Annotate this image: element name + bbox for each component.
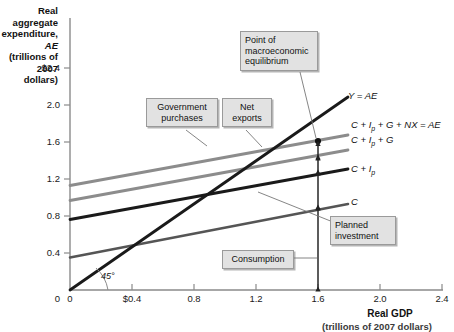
- x-tick-label-0-4: $0.4: [114, 293, 150, 304]
- callout-equilibrium-line-2: macroeconomic: [245, 46, 313, 57]
- callout-planned-investment-line-2: investment: [335, 231, 391, 242]
- callout-net-exports-line-1: Net: [227, 102, 267, 113]
- x-tick-label-0: 0: [52, 293, 88, 304]
- y-tick-label-2-4: $2.4: [26, 62, 60, 73]
- callout-equilibrium: Point of macroeconomic equilibrium: [240, 31, 318, 71]
- callout-net-exports: Net exports: [222, 98, 272, 127]
- x-tick-label-0-8: 0.8: [176, 293, 212, 304]
- callout-government-purchases-line-1: Government: [151, 102, 213, 113]
- x-tick-label-2-4: 2.4: [424, 293, 454, 304]
- callout-equilibrium-line-1: Point of: [245, 35, 313, 46]
- x-axis-subtitle: (trillions of 2007 dollars): [300, 321, 454, 332]
- callout-government-purchases: Government purchases: [146, 98, 218, 127]
- y-axis-title-line-1: Real aggregate: [0, 5, 58, 28]
- y-axis-title: Real aggregate expenditure, AE (trillion…: [0, 5, 58, 86]
- x-axis-ticks: [132, 284, 442, 290]
- y-tick-label-0-8: 0.8: [26, 210, 60, 221]
- forty-five-degree-label: 45°: [101, 271, 115, 281]
- callout-net-exports-line-2: exports: [227, 113, 267, 124]
- callout-equilibrium-line-3: equilibrium: [245, 56, 313, 67]
- callout-consumption: Consumption: [222, 250, 294, 269]
- series-label-y-ae: Y = AE: [348, 90, 377, 101]
- callout-planned-investment: Planned investment: [330, 216, 396, 245]
- callout-consumption-line-1: Consumption: [227, 254, 289, 265]
- y-tick-label-1-2: 1.2: [26, 173, 60, 184]
- series-label-c-ip-g: C + Ip + G: [351, 134, 393, 147]
- y-axis-title-line-3: (trillions of: [0, 51, 58, 63]
- callout-government-purchases-line-2: purchases: [151, 113, 213, 124]
- x-tick-label-1-2: 1.2: [238, 293, 274, 304]
- series-label-c-ip-g-nx-rest: + G + NX = AE: [375, 119, 440, 130]
- x-tick-label-2-0: 2.0: [362, 293, 398, 304]
- series-label-c-ip: C + Ip: [351, 163, 375, 176]
- series-label-c-ip-g-nx: C + Ip + G + NX = AE: [351, 119, 441, 132]
- x-tick-label-1-6: 1.6: [300, 293, 336, 304]
- series-label-c: C: [351, 196, 358, 207]
- series-label-c-ip-main: C + I: [351, 163, 371, 174]
- series-label-c-ip-g-nx-main: C + I: [351, 119, 371, 130]
- y-tick-label-1-6: 1.6: [26, 136, 60, 147]
- series-label-c-ip-g-main: C + I: [351, 134, 371, 145]
- y-axis-ticks: [64, 68, 70, 253]
- x-axis-title: Real GDP: [330, 308, 450, 319]
- y-tick-label-2-0: 2.0: [26, 99, 60, 110]
- series-label-c-ip-g-rest: + G: [375, 134, 393, 145]
- y-tick-label-0-4: 0.4: [26, 247, 60, 258]
- y-axis-title-line-2: expenditure, AE: [0, 28, 58, 51]
- series-label-c-ip-sub: p: [371, 169, 375, 176]
- callout-planned-investment-line-1: Planned: [335, 220, 391, 231]
